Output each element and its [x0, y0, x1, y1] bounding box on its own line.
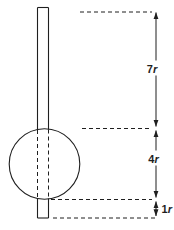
dimension-label-1r: 1r — [162, 203, 173, 215]
sphere — [9, 129, 80, 200]
leader-lines — [51, 12, 157, 218]
dimension-label-4r: 4r — [148, 153, 159, 165]
diagram-canvas: 7r 4r 1r — [0, 0, 174, 230]
figure: 7r 4r 1r — [0, 0, 174, 230]
dimension-4r: 4r — [145, 131, 163, 198]
dimension-label-7r: 7r — [147, 63, 158, 75]
dimension-1r: 1r — [156, 202, 173, 217]
dimension-7r: 7r — [143, 13, 161, 127]
rod — [38, 8, 49, 219]
